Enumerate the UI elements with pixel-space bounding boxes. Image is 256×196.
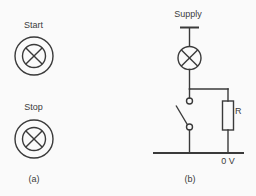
resistor-body xyxy=(223,101,234,130)
resistor-label: R xyxy=(235,106,245,117)
resistor-icon xyxy=(223,89,234,153)
circuit-figure: Start Stop (a) xyxy=(0,0,256,196)
switch-icon xyxy=(176,89,193,153)
supply-label: Supply xyxy=(164,9,212,20)
zero-volt-label: 0 V xyxy=(214,156,242,167)
switch-terminal-bottom xyxy=(187,124,193,130)
panel-b-caption: (b) xyxy=(170,174,210,185)
switch-blade xyxy=(176,106,188,126)
lamp-icon xyxy=(178,47,201,70)
supply-terminal-icon xyxy=(181,28,198,47)
switch-terminal-top xyxy=(187,98,193,104)
